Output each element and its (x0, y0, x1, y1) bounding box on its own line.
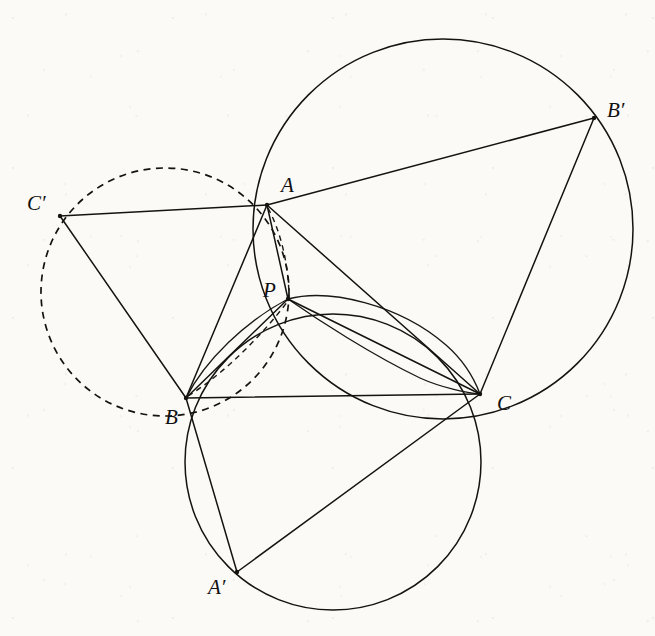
geometry-figure: A B C P A′ B′ C′ (0, 0, 655, 636)
segment-A-Bprime (267, 118, 594, 205)
segment-BC (186, 394, 480, 398)
segment-B-Cprime (60, 216, 186, 398)
label-C-prime: C′ (27, 191, 46, 215)
vertex-P (286, 297, 290, 301)
label-B-prime: B′ (607, 98, 625, 122)
vertex-B (184, 396, 188, 400)
vertex-B-prime (592, 116, 596, 120)
labels-group: A B C P A′ B′ C′ (27, 98, 625, 599)
segment-C-Bprime (480, 118, 594, 394)
label-P: P (262, 278, 276, 302)
vertex-A-prime (235, 570, 239, 574)
label-C: C (497, 391, 512, 415)
label-A: A (279, 173, 294, 197)
segment-AC (267, 205, 480, 394)
segment-AB (186, 205, 267, 398)
geometry-canvas: A B C P A′ B′ C′ (0, 0, 655, 636)
segment-A-Cprime (60, 205, 267, 216)
segment-C-Aprime (237, 394, 480, 572)
label-A-prime: A′ (206, 575, 226, 599)
circles-group (41, 39, 633, 610)
vertex-C (478, 392, 482, 396)
label-B: B (165, 405, 178, 429)
segments-group (60, 118, 594, 572)
vertex-C-prime (58, 214, 62, 218)
circle-circumcircle-BAprimeC (185, 314, 481, 610)
segment-BP (186, 299, 288, 398)
vertex-A (265, 203, 269, 207)
segment-CP (288, 299, 480, 394)
